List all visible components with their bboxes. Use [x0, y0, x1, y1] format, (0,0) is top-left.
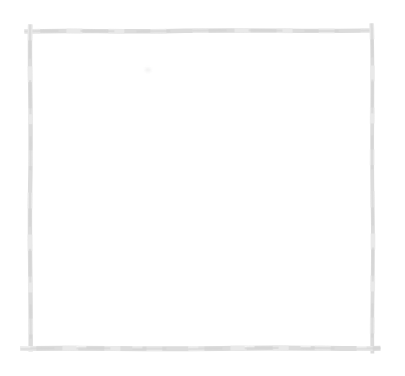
hand-drawn-frame [0, 0, 405, 376]
pencil-smudge [145, 68, 151, 73]
sketch-canvas [0, 0, 405, 376]
paper-background [0, 0, 405, 376]
